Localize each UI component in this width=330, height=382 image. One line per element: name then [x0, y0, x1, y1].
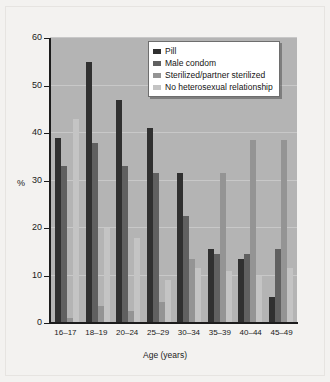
- bar: [165, 280, 171, 323]
- legend-item: Pill: [153, 45, 273, 57]
- bar: [61, 166, 67, 323]
- x-tick-label: 35–39: [204, 328, 235, 337]
- y-axis-title: %: [17, 178, 25, 188]
- legend-swatch-icon: [153, 49, 161, 54]
- x-tick-label: 45–49: [266, 328, 297, 337]
- chart-legend: PillMale condomSterilized/partner steril…: [148, 41, 280, 97]
- y-tick-mark: [44, 323, 49, 324]
- legend-label: No heterosexual relationship: [165, 83, 273, 92]
- y-tick-label: 50: [2, 81, 42, 90]
- bar-group: [52, 38, 83, 323]
- legend-label: Pill: [165, 47, 176, 56]
- bar: [195, 268, 201, 323]
- bar: [153, 173, 159, 323]
- y-tick-label: 0: [2, 318, 42, 327]
- x-tick-label: 16–17: [50, 328, 81, 337]
- bar: [104, 228, 110, 323]
- legend-swatch-icon: [153, 61, 161, 66]
- legend-item: Male condom: [153, 57, 273, 69]
- legend-swatch-icon: [153, 85, 161, 90]
- y-tick-mark: [44, 133, 49, 134]
- y-tick-mark: [44, 181, 49, 182]
- x-tick-label: 18–19: [81, 328, 112, 337]
- bar-group: [113, 38, 144, 323]
- x-axis-line: [49, 322, 298, 324]
- y-tick-mark: [44, 38, 49, 39]
- y-tick-mark: [44, 86, 49, 87]
- bar: [226, 271, 232, 323]
- legend-swatch-icon: [153, 73, 161, 78]
- chart-figure: 0102030405060 % 16–1718–1920–2425–2930–3…: [0, 0, 330, 382]
- x-axis-tick-labels: 16–1718–1920–2425–2930–3435–3940–4445–49: [50, 328, 297, 337]
- x-axis-title: Age (years): [0, 350, 330, 360]
- bar: [122, 166, 128, 323]
- y-tick-mark: [44, 228, 49, 229]
- x-tick-label: 40–44: [235, 328, 266, 337]
- y-axis-line: [49, 38, 51, 323]
- y-tick-label: 20: [2, 223, 42, 232]
- x-tick-label: 30–34: [174, 328, 205, 337]
- legend-item: No heterosexual relationship: [153, 81, 273, 93]
- bar: [73, 119, 79, 323]
- legend-item: Sterilized/partner sterilized: [153, 69, 273, 81]
- bar: [287, 268, 293, 323]
- bar: [256, 276, 262, 324]
- y-tick-mark: [44, 276, 49, 277]
- x-tick-label: 20–24: [112, 328, 143, 337]
- bar: [92, 143, 98, 324]
- y-tick-label: 10: [2, 271, 42, 280]
- y-tick-label: 60: [2, 33, 42, 42]
- y-tick-label: 40: [2, 128, 42, 137]
- legend-label: Sterilized/partner sterilized: [165, 71, 265, 80]
- x-tick-label: 25–29: [143, 328, 174, 337]
- bar-group: [83, 38, 114, 323]
- legend-label: Male condom: [165, 59, 216, 68]
- bar: [134, 238, 140, 324]
